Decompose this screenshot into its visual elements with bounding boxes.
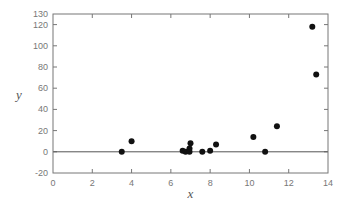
y-tick-label: 20 (38, 126, 48, 136)
data-points (119, 24, 319, 155)
data-point (250, 134, 256, 140)
y-tick-label: 60 (38, 83, 48, 93)
y-tick-label: 120 (33, 20, 48, 30)
x-tick-label: 4 (129, 178, 134, 188)
x-tick-label: 0 (50, 178, 55, 188)
x-tick-label: 14 (323, 178, 333, 188)
y-tick-label: 80 (38, 62, 48, 72)
scatter-chart: 02468101214-20020406080100120130 x y (0, 0, 347, 208)
x-tick-label: 2 (90, 178, 95, 188)
axis-ticks: 02468101214-20020406080100120130 (33, 9, 333, 188)
data-point (309, 24, 315, 30)
y-tick-label: 0 (43, 147, 48, 157)
y-tick-label: 40 (38, 104, 48, 114)
y-axis-label: y (14, 87, 22, 102)
x-tick-label: 12 (284, 178, 294, 188)
data-point (119, 149, 125, 155)
data-point (313, 71, 319, 77)
data-point (207, 148, 213, 154)
data-point (187, 146, 193, 152)
y-tick-label: 130 (33, 9, 48, 19)
data-point (274, 123, 280, 129)
data-point (199, 149, 205, 155)
x-tick-label: 6 (168, 178, 173, 188)
data-point (262, 149, 268, 155)
x-axis-label: x (187, 186, 194, 201)
data-point (129, 138, 135, 144)
x-tick-label: 8 (208, 178, 213, 188)
data-point (188, 140, 194, 146)
y-tick-label: -20 (35, 168, 48, 178)
data-point (213, 141, 219, 147)
x-tick-label: 10 (244, 178, 254, 188)
y-tick-label: 100 (33, 41, 48, 51)
